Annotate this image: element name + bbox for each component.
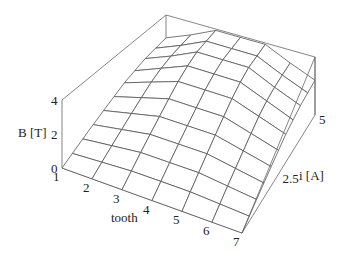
z-axis-label: B [T] xyxy=(18,125,47,140)
x-tick-label: 4 xyxy=(143,202,150,217)
x-tick-label: 3 xyxy=(113,191,120,206)
surface-plot: 12345672.55024 B [T] tooth i [A] xyxy=(0,0,345,258)
surface-mesh xyxy=(62,30,315,233)
y-axis-label: i [A] xyxy=(299,168,324,183)
x-tick-label: 7 xyxy=(233,234,240,249)
x-axis-label: tooth xyxy=(111,210,138,225)
x-tick-label: 2 xyxy=(83,180,90,195)
z-tick-label: 4 xyxy=(51,93,58,108)
z-tick-label: 0 xyxy=(51,161,58,176)
y-tick-label: 5 xyxy=(319,112,326,127)
x-tick-label: 5 xyxy=(173,212,180,227)
z-tick-label: 2 xyxy=(51,127,58,142)
y-tick-label: 2.5 xyxy=(283,171,299,186)
x-tick-label: 6 xyxy=(203,223,210,238)
